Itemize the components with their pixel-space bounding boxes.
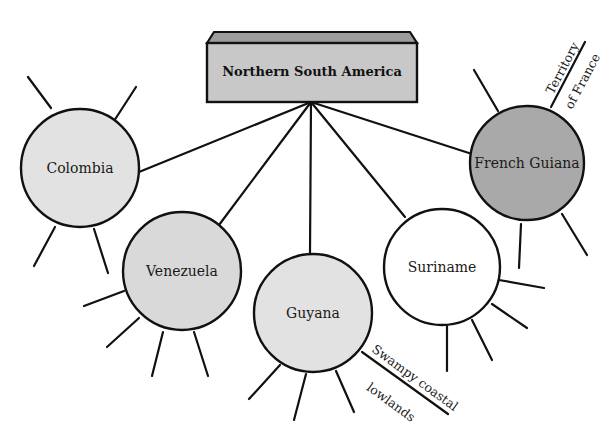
node-venezuela: Venezuela (84, 212, 241, 376)
node-label-colombia: Colombia (46, 160, 113, 176)
spider-diagram: Northern South America Colombia Venezuel… (0, 0, 615, 438)
node-label-french-guiana: French Guiana (474, 155, 579, 171)
node-label-suriname: Suriname (408, 259, 477, 275)
node-colombia: Colombia (21, 77, 139, 273)
title-box: Northern South America (207, 32, 417, 102)
title-box-top (207, 32, 417, 43)
connector-suriname (311, 102, 405, 217)
node-label-guyana: Guyana (286, 305, 340, 321)
diagram-title: Northern South America (222, 64, 402, 79)
connector-french-guiana (311, 102, 472, 154)
node-label-venezuela: Venezuela (145, 263, 218, 279)
connector-guyana (310, 102, 311, 253)
